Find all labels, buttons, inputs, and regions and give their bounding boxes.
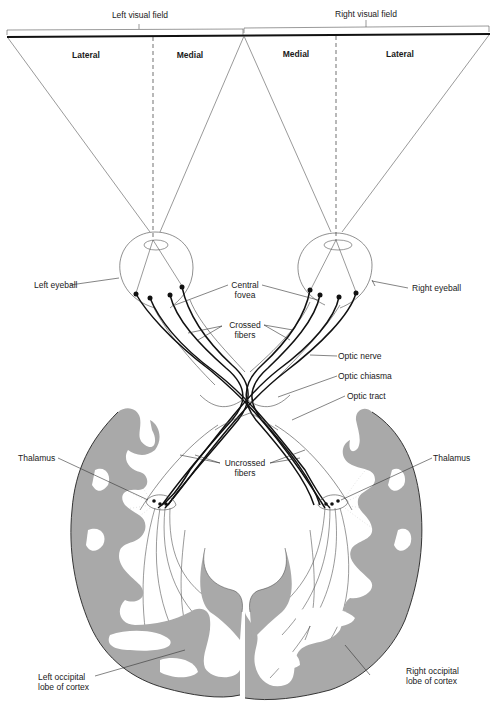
thalamus-right-label: Thalamus [433,453,470,463]
thalamus-right-nucleus [318,495,348,510]
crossed-fibers-label-line1: Crossed [224,320,266,330]
right-hemisphere-cortex [245,409,422,700]
uncrossed-fibers-label-line1: Uncrossed [220,458,270,468]
left-visual-field-label: Left visual field [108,10,172,20]
visual-rays [8,35,489,293]
optic-nerve-label: Optic nerve [338,351,381,361]
visual-pathway-diagram [0,0,495,712]
crossed-fibers-label-line2: fibers [224,330,266,340]
right-visual-field-label: Right visual field [330,9,402,19]
left-eyeball-label: Left eyeball [34,280,77,290]
optic-tract-label: Optic tract [347,391,386,401]
right-lateral-label: Lateral [380,49,420,59]
left-occipital-label-line1: Left occipital [38,672,85,682]
right-eyeball-label: Right eyeball [412,283,461,293]
left-medial-label: Medial [170,50,210,60]
left-hemisphere-cortex [71,408,240,697]
right-occipital-label-line1: Right occipital [406,666,459,676]
uncrossed-fibers-label-line2: fibers [220,468,270,478]
right-occipital-label-line2: lobe of cortex [406,676,457,686]
optic-chiasma-label: Optic chiasma [338,371,392,381]
central-fovea-label-line2: fovea [228,290,262,300]
central-fovea-label-line1: Central [228,280,262,290]
left-lateral-label: Lateral [66,50,106,60]
left-eyeball [120,232,193,308]
thalamus-left-label: Thalamus [18,453,55,463]
left-occipital-label-line2: lobe of cortex [38,682,89,692]
right-medial-label: Medial [276,49,316,59]
